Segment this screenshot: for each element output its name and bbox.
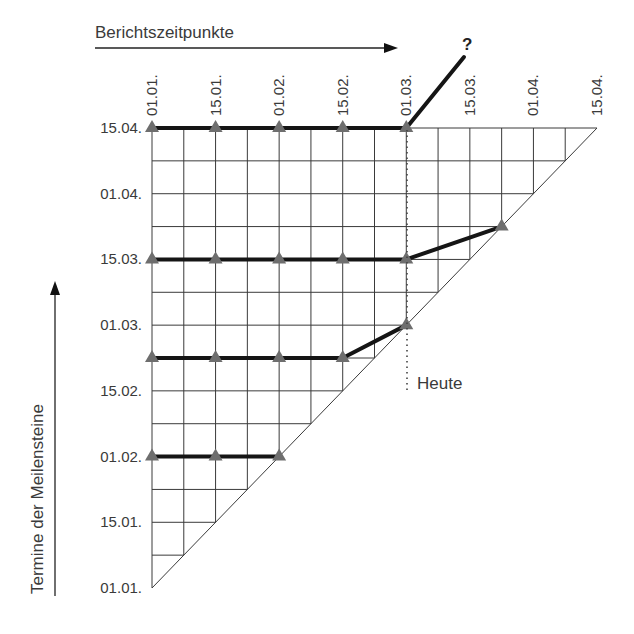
report-date-label: 01.04. (524, 74, 541, 116)
report-date-label: 15.04. (588, 74, 605, 116)
y-axis-arrowhead-icon (50, 281, 60, 295)
milestone-date-label: 15.04. (100, 119, 142, 136)
report-date-label: 01.03. (397, 74, 414, 116)
report-date-label: 15.03. (461, 74, 478, 116)
milestone-date-label: 01.04. (100, 185, 142, 202)
x-axis-arrowhead-icon (384, 43, 398, 53)
milestone-triangle-icon (495, 219, 509, 231)
y-axis-title: Termine der Meilensteine (28, 404, 47, 594)
milestone-date-label: 01.03. (100, 316, 142, 333)
milestone-series (145, 57, 509, 461)
x-axis-title: Berichtszeitpunkte (95, 23, 234, 42)
milestone-trend-line (152, 227, 502, 260)
milestone-date-label: 01.01. (100, 579, 142, 596)
milestone-date-label: 15.03. (100, 250, 142, 267)
milestone-date-labels: 15.04.01.04.15.03.01.03.15.02.01.02.15.0… (100, 119, 142, 596)
report-date-label: 01.02. (270, 74, 287, 116)
report-date-label: 15.02. (334, 74, 351, 116)
report-date-label: 15.01. (207, 74, 224, 116)
milestone-trend-diagram: Berichtszeitpunkte Termine der Meilenste… (0, 0, 634, 634)
report-date-label: 01.01. (143, 74, 160, 116)
unknown-trend-line (406, 57, 464, 128)
today-label: Heute (417, 374, 462, 393)
milestone-date-label: 15.01. (100, 513, 142, 530)
milestone-date-label: 01.02. (100, 448, 142, 465)
report-date-labels: 01.01.15.01.01.02.15.02.01.03.15.03.01.0… (143, 74, 605, 116)
milestone-date-label: 15.02. (100, 382, 142, 399)
unknown-trend-marker: ? (462, 35, 472, 54)
